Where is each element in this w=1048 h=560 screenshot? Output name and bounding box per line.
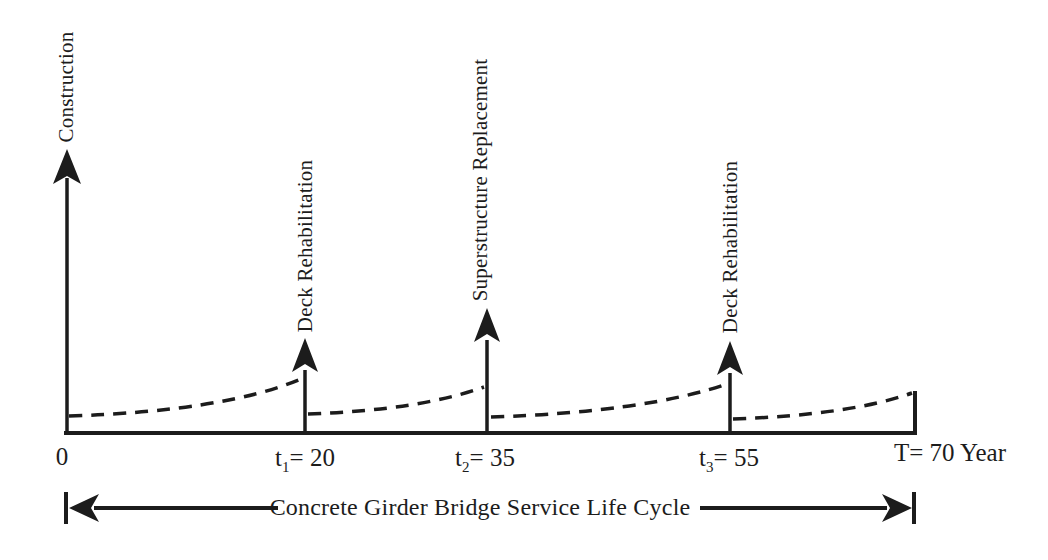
tick-t3-symbol: t [699, 444, 706, 471]
tick-t1-value: = 20 [290, 444, 335, 471]
dashed-curve-segment-2 [308, 387, 484, 414]
dashed-curve-segment-3 [491, 384, 727, 417]
dashed-curve-segment-1 [69, 379, 301, 416]
tick-label-t3: t3= 55 [699, 444, 759, 472]
tick-label-end: T= 70 Year [894, 439, 1006, 467]
bridge-life-cycle-diagram: Construction Deck Rehabilitation Superst… [0, 0, 1048, 560]
diagram-drawing [0, 0, 1048, 560]
event-arrowhead-2-icon [474, 308, 500, 342]
tick-t1-symbol: t [275, 444, 282, 471]
event-label-1: Deck Rehabilitation [293, 160, 318, 332]
event-arrowhead-3-icon [717, 341, 743, 375]
tick-t2-symbol: t [455, 444, 462, 471]
tick-label-t2: t2= 35 [455, 444, 515, 472]
event-label-2: Superstructure Replacement [468, 59, 493, 302]
service-life-caption: Concrete Girder Bridge Service Life Cycl… [270, 494, 691, 521]
tick-t2-value: = 35 [470, 444, 515, 471]
event-label-3: Deck Rehabilitation [718, 161, 743, 333]
dashed-curve-segment-4 [733, 393, 912, 419]
tick-label-origin: 0 [56, 443, 69, 471]
y-axis-label: Construction [54, 32, 79, 143]
event-arrowhead-1-icon [292, 338, 318, 372]
tick-t3-value: = 55 [714, 444, 759, 471]
tick-label-t1: t1= 20 [275, 444, 335, 472]
